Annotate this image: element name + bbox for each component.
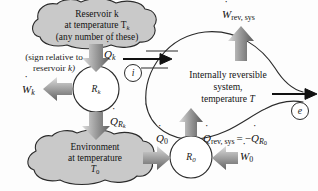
outlet-port-letter: e — [298, 105, 302, 116]
reservoir-line1: Reservoir k — [34, 9, 160, 20]
work-Wk-label: ˙Wk — [22, 83, 35, 98]
reservoir-label: Reservoir k at temperature Tk (any numbe… — [34, 9, 160, 43]
Qrevsys-sub: rev, sys — [211, 137, 235, 146]
cycle-R0-sub: 0 — [192, 156, 195, 163]
outlet-port-label: e — [292, 105, 308, 116]
reservoir-line2-sub: k — [126, 24, 129, 31]
environment-line3: T0 — [32, 164, 158, 176]
system-line2: system, — [168, 81, 288, 93]
environment-line1: Environment — [32, 142, 158, 153]
cycle-Rk-sub: k — [97, 88, 100, 95]
inlet-stream-arrow — [123, 54, 172, 65]
equation-equals: = — [235, 132, 245, 144]
W0-sub: 0 — [249, 155, 253, 164]
sign-note-line2-var: k) — [68, 63, 75, 73]
reservoir-line2-text: at temperature T — [65, 20, 127, 30]
heat-Qk-label: ˙Qk — [104, 48, 115, 63]
work-Wk-arrow — [43, 77, 72, 101]
heat-QRk-label: ˙QRk — [110, 115, 126, 130]
reservoir-line3: (any number of these) — [34, 32, 160, 43]
heat-balance-equation: ˙Qrev, sys=−˙QR0 — [203, 132, 267, 147]
Wk-sub: k — [31, 88, 35, 97]
heat-Qrevsys-arrow — [179, 108, 203, 136]
work-W0-label: ˙W0 — [240, 150, 253, 165]
figure-canvas: Reservoir k at temperature Tk (any numbe… — [0, 0, 318, 191]
QRk-sub2: k — [123, 122, 126, 129]
Qk-sub: k — [112, 53, 116, 62]
work-W0-arrow — [212, 146, 238, 170]
sign-note-line2-text: reservoir — [33, 63, 68, 73]
cycle-Rk-label: Rk — [78, 83, 114, 95]
system-label: Internally reversible system, temperatur… — [168, 69, 288, 105]
environment-line2: at temperature — [32, 153, 158, 164]
cycle-R0-label: R0 — [173, 151, 209, 163]
system-line1: Internally reversible — [168, 69, 288, 81]
sign-note-line2: reservoir k) — [2, 63, 106, 74]
reservoir-line2: at temperature Tk — [34, 20, 160, 32]
system-line3: temperature T — [168, 93, 288, 105]
Wrevsys-sub: rev, sys — [231, 13, 255, 22]
system-line3-var: T — [249, 93, 254, 104]
sign-note-line1: (sign relative to — [2, 52, 106, 63]
QR0-sub2: 0 — [264, 139, 267, 146]
inlet-port-letter: i — [132, 67, 135, 78]
heat-Q0-label: ˙Q0 — [156, 132, 168, 147]
environment-label: Environment at temperature T0 — [32, 142, 158, 176]
Q0-sub: 0 — [164, 137, 168, 146]
system-line3-text: temperature — [201, 93, 249, 104]
sign-convention-note: (sign relative to reservoir k) — [2, 52, 106, 74]
inlet-port-label: i — [125, 67, 141, 78]
environment-line3-sub: 0 — [96, 168, 99, 175]
work-Wrevsys-label: ˙Wrev, sys — [222, 8, 255, 23]
